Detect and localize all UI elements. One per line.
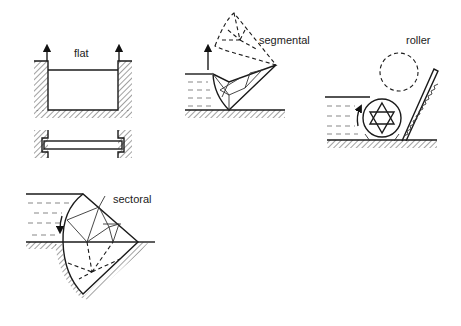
segmental-gate-panel: segmental [185,13,310,118]
sill-hatch [34,110,132,118]
roller-label: roller [406,34,431,46]
roller-gate-panel: roller [325,34,438,148]
flat-gate-plan [44,141,122,149]
flat-gate-panel: flat [34,47,132,158]
right-wall-hatch [118,61,132,111]
rotation-arrow-icon [60,216,62,230]
sectoral-label: sectoral [113,193,152,205]
left-wall-hatch [34,61,48,111]
segmental-label: segmental [259,34,310,46]
flat-label: flat [74,47,89,59]
roller-drum [363,99,401,137]
rotation-arrow-icon [357,108,360,126]
star-icon [370,103,394,124]
sectoral-gate-panel: sectoral [26,193,155,300]
gate-types-diagram: flat segmental ro [0,0,461,326]
